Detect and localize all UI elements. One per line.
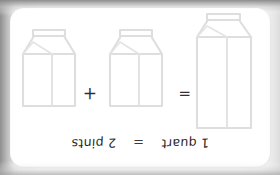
pint-2-cap (33, 30, 65, 36)
quart-cap (207, 14, 240, 20)
caption-left-label: 1 quart (161, 136, 209, 152)
pint-carton-1-graphic (106, 30, 166, 110)
pint-2-spout-fold (23, 42, 52, 54)
pint-carton-2 (19, 30, 79, 110)
pint-carton-2-graphic (19, 30, 79, 110)
quart-carton (193, 14, 255, 132)
pint-carton-1 (106, 30, 166, 110)
caption-equals-symbol: = (133, 136, 144, 151)
caption-row: 1 quart = 2 pints (11, 132, 269, 156)
quart-spout-fold (197, 26, 227, 37)
pint-1-spout-fold (110, 42, 139, 54)
pint-1-cap (120, 30, 152, 36)
quart-body-outline (197, 37, 251, 128)
pint-2-body-outline (23, 54, 75, 106)
diagram-plus-symbol: + (83, 85, 97, 102)
image-frame: 1 quart = 2 pints (0, 0, 280, 175)
caption-right-label: 2 pints (71, 136, 117, 152)
lesson-card: 1 quart = 2 pints (11, 9, 269, 166)
pint-1-body-outline (110, 54, 162, 106)
diagram-equals-symbol: = (179, 86, 191, 101)
quart-carton-graphic (193, 14, 255, 132)
card-content-rotated: 1 quart = 2 pints (11, 9, 269, 166)
diagram-row: = + (11, 12, 269, 130)
